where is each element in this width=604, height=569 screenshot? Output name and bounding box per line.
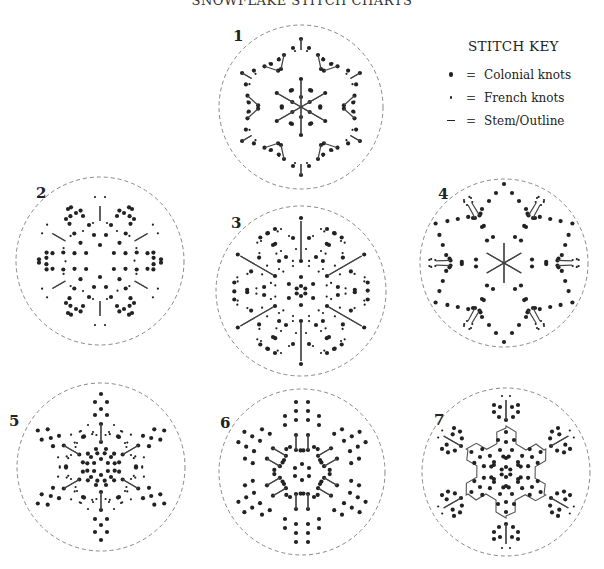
colonial-knot	[99, 392, 103, 396]
colonial-knot	[519, 283, 523, 287]
colonial-knot	[64, 217, 68, 221]
dashed-hoop-outline	[16, 177, 184, 345]
french-knot	[87, 424, 89, 426]
french-knot	[75, 486, 77, 488]
colonial-knot	[61, 250, 65, 254]
colonial-knot	[273, 227, 277, 231]
equals-sign: =	[458, 114, 484, 128]
french-knot	[143, 456, 145, 458]
colonial-knot	[79, 309, 83, 313]
colonial-knot	[555, 491, 559, 495]
colonial-knot	[288, 445, 292, 449]
french-knot	[354, 307, 356, 309]
colonial-knot	[508, 467, 512, 471]
stem-stitch	[324, 459, 337, 467]
colonial-knot	[332, 432, 336, 436]
colonial-knot	[94, 447, 98, 451]
french-knot	[104, 324, 106, 326]
colonial-knot	[491, 235, 495, 239]
colonial-knot	[147, 486, 151, 490]
colonial-knot	[328, 472, 332, 476]
colonial-knot	[528, 493, 532, 497]
colonial-knot	[262, 293, 266, 297]
colonial-knot	[289, 89, 293, 93]
colonial-knot	[319, 460, 323, 464]
colonial-knot	[510, 191, 514, 195]
colonial-knot	[517, 323, 521, 327]
colonial-knot	[445, 443, 449, 447]
colonial-knot	[451, 508, 455, 512]
colonial-knot	[341, 256, 345, 260]
colonial-knot	[548, 504, 552, 508]
colonial-knot	[44, 256, 48, 260]
french-knot	[306, 162, 308, 164]
colonial-knot	[332, 347, 336, 351]
french-knot	[342, 252, 344, 254]
french-knot	[108, 431, 110, 433]
colonial-knot	[252, 449, 256, 453]
colonial-knot	[354, 82, 358, 86]
colonial-knot	[81, 304, 85, 308]
french-knot	[323, 230, 325, 232]
colonial-knot	[353, 288, 357, 292]
french-knot	[120, 502, 122, 504]
colonial-knot	[124, 286, 128, 290]
colonial-knot	[460, 436, 464, 440]
french-knot	[135, 247, 137, 249]
colonial-knot	[106, 469, 110, 473]
french-knot	[57, 456, 59, 458]
colonial-knot	[299, 275, 303, 279]
stem-stitch	[318, 488, 331, 496]
colonial-knot	[283, 423, 287, 427]
stem-stitch	[350, 73, 360, 79]
colonial-knot	[536, 461, 540, 465]
french-knot	[278, 312, 280, 314]
french-knot	[91, 433, 93, 435]
colonial-knot	[548, 305, 552, 309]
colonial-knot	[57, 496, 61, 500]
colonial-knot	[99, 457, 103, 461]
colonial-knot	[453, 491, 457, 495]
french-knot	[116, 230, 118, 232]
colonial-knot	[299, 133, 303, 137]
colonial-knot	[358, 510, 362, 514]
colonial-knot	[445, 497, 449, 501]
colonial-knot	[85, 469, 89, 473]
french-knot	[246, 273, 248, 275]
colonial-knot	[262, 285, 266, 289]
colonial-knot	[250, 506, 254, 510]
colonial-knot	[252, 141, 256, 145]
colonial-knot	[92, 285, 96, 289]
french-knot	[573, 436, 575, 438]
colonial-knot	[441, 279, 445, 283]
colonial-knot	[109, 295, 113, 299]
stem-stitch	[52, 234, 65, 242]
colonial-knot	[244, 128, 248, 132]
colonial-knot	[99, 473, 103, 477]
colonial-knot	[277, 152, 281, 156]
colonial-knot	[68, 214, 72, 218]
colonial-knot	[440, 447, 444, 451]
colonial-knot	[516, 530, 520, 534]
colonial-knot	[306, 418, 310, 422]
french-knot	[543, 323, 545, 325]
colonial-knot	[104, 483, 108, 487]
colonial-knot	[128, 304, 132, 308]
colonial-knot	[539, 450, 543, 454]
colonial-knot	[563, 243, 567, 247]
colonial-knot	[491, 287, 495, 291]
french-knot	[82, 290, 84, 292]
stem-stitch	[242, 136, 252, 142]
colonial-knot	[36, 501, 40, 505]
colonial-knot	[348, 491, 352, 495]
french-knot	[105, 434, 107, 436]
colonial-knot	[314, 323, 318, 327]
stem-stitch	[504, 253, 521, 263]
french-knot	[364, 276, 366, 278]
french-knot	[437, 505, 439, 507]
french-knot	[501, 395, 503, 397]
colonial-knot	[530, 264, 534, 268]
colonial-knot	[67, 222, 71, 226]
french-knot	[295, 248, 297, 250]
colonial-knot	[103, 479, 107, 483]
